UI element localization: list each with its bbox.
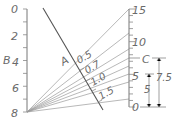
- nomograph-diagram: 0 2 B 4 6 8 A 0.5 0.7 1.0 1.5 15 10 C: [0, 0, 177, 134]
- dimension-short: 5: [144, 84, 150, 95]
- scale-c-tick-5: 5: [132, 70, 139, 83]
- scale-b-tick-8: 8: [11, 107, 18, 120]
- scale-c: 15 10 C 5 0: [129, 4, 150, 114]
- scale-c-tick-0: 0: [132, 101, 139, 114]
- scale-b: 0 2 B 4 6 8: [3, 3, 27, 120]
- dimension-long: 7.5: [156, 72, 172, 83]
- scale-a-label: A: [57, 54, 71, 70]
- scale-b-tick-4: 4: [12, 56, 19, 69]
- scale-c-tick-10: 10: [132, 36, 146, 49]
- scale-b-tick-6: 6: [12, 82, 19, 95]
- scale-b-label: B: [3, 54, 11, 67]
- scale-b-tick-0: 0: [11, 3, 18, 16]
- scale-c-tick-15: 15: [132, 4, 146, 17]
- scale-c-label: C: [142, 53, 150, 66]
- scale-b-tick-2: 2: [11, 30, 18, 43]
- scale-a: A 0.5 0.7 1.0 1.5: [43, 8, 116, 110]
